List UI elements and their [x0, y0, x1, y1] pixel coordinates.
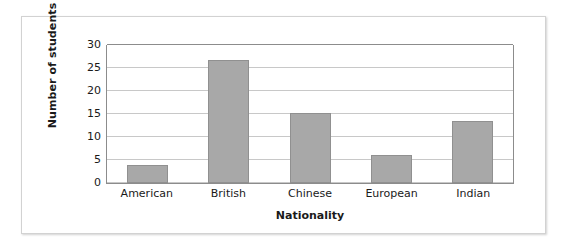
bar-british[interactable]: [208, 60, 249, 183]
bar-slot: [432, 45, 513, 183]
y-axis-tick-label: 5: [94, 153, 101, 166]
bar-slot: [351, 45, 432, 183]
bar-chinese[interactable]: [290, 113, 331, 183]
y-axis-tick-label: 30: [87, 38, 101, 51]
y-axis-tick-label: 20: [87, 84, 101, 97]
y-axis-title: Number of students: [46, 0, 59, 141]
x-axis-tick-label: Indian: [432, 187, 514, 200]
x-axis-tick-labels: AmericanBritishChineseEuropeanIndian: [106, 187, 514, 200]
x-axis-tick-label: British: [188, 187, 270, 200]
chart-figure: Number of students 051015202530 American…: [21, 16, 546, 234]
bar-group: [107, 45, 513, 183]
y-axis-tick-label: 15: [87, 107, 101, 120]
x-axis-tick-label: American: [106, 187, 188, 200]
bar-indian[interactable]: [452, 121, 493, 183]
bar-american[interactable]: [127, 165, 168, 183]
bar-slot: [269, 45, 350, 183]
plot-area: 051015202530: [106, 45, 514, 184]
x-axis-tick-label: Chinese: [269, 187, 351, 200]
y-axis-tick-label: 25: [87, 61, 101, 74]
x-axis-title: Nationality: [106, 209, 514, 222]
y-axis-tick-label: 10: [87, 130, 101, 143]
bar-european[interactable]: [371, 155, 412, 183]
bar-slot: [107, 45, 188, 183]
x-axis-tick-label: European: [351, 187, 433, 200]
bar-slot: [188, 45, 269, 183]
y-axis-tick-label: 0: [94, 176, 101, 189]
